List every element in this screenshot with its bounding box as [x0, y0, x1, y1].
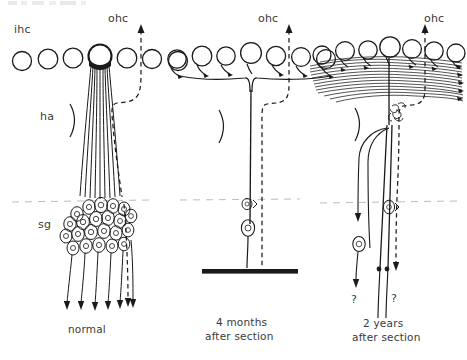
axon-terminal-dot-left: [377, 267, 382, 272]
label-question-left: ?: [351, 293, 357, 306]
caption-four-months-line1: 4 months: [216, 316, 267, 328]
label-question-right: ?: [391, 292, 397, 305]
caption-normal: normal: [68, 323, 106, 335]
label-ihc: ihc: [14, 23, 31, 36]
cochlear-innervation-figure: ihc ohc ha sg: [0, 0, 467, 360]
label-sg: sg: [38, 218, 51, 231]
caption-four-months-line2: after section: [205, 330, 274, 342]
axon-terminal-dot-right: [385, 267, 390, 272]
caption-two-years-line1: 2 years: [363, 317, 403, 329]
label-ohc-four-months: ohc: [258, 12, 278, 25]
label-ohc-normal: ohc: [108, 12, 128, 25]
caption-two-years-line2: after section: [352, 331, 421, 343]
figure-canvas: ihc ohc ha sg: [0, 0, 467, 360]
label-ohc-two-years: ohc: [424, 12, 444, 25]
terminal-bar-four-months: [202, 269, 298, 274]
label-ha: ha: [40, 110, 54, 123]
